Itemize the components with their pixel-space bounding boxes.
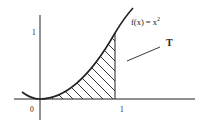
function-label: f(x) = x2	[131, 16, 160, 27]
y-tick-label-1: 1	[32, 28, 36, 37]
diagram-canvas: f(x) = x2 T 1 0 1	[0, 0, 204, 126]
parabola-area-figure: f(x) = x2 T 1 0 1	[0, 0, 204, 126]
region-pointer-line	[127, 47, 160, 61]
parabola-curve	[22, 8, 133, 99]
origin-label: 0	[30, 105, 34, 114]
x-tick-label-1: 1	[120, 105, 124, 114]
region-label-T: T	[166, 37, 173, 48]
hatched-region-T	[44, 34, 126, 102]
